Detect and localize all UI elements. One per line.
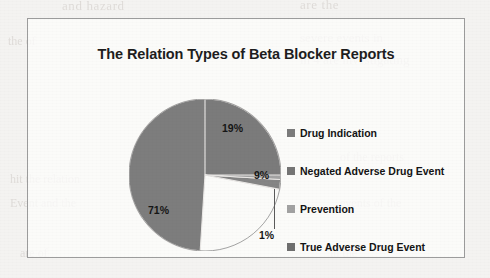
ghost-text-line: are the [300,0,339,13]
chart-frame: The Relation Types of Beta Blocker Repor… [27,18,465,258]
legend-swatch-icon [287,129,295,137]
legend-item-label: Negated Adverse Drug Event [300,165,444,177]
ghost-text-line: and hazard [62,0,125,14]
legend-item-label: Prevention [300,203,354,215]
data-label-prevention: 1% [259,229,274,241]
legend-item-negated-adverse-drug-event[interactable]: Negated Adverse Drug Event [287,152,487,190]
chart-title: The Relation Types of Beta Blocker Repor… [28,46,464,62]
data-label-drug-indication: 19% [222,122,243,134]
legend-item-label: Drug Indication [300,127,377,139]
chart-legend: Drug Indication Negated Adverse Drug Eve… [287,114,487,266]
legend-item-drug-indication[interactable]: Drug Indication [287,114,487,152]
legend-swatch-icon [287,167,295,175]
legend-item-prevention[interactable]: Prevention [287,190,487,228]
data-label-true-adverse-drug-event: 71% [148,204,169,216]
legend-item-label: True Adverse Drug Event [300,241,425,253]
data-label-negated-adverse-drug-event: 9% [254,169,269,181]
legend-item-true-adverse-drug-event[interactable]: True Adverse Drug Event [287,228,487,266]
legend-swatch-icon [287,205,295,213]
prevention-leader-line [274,189,275,229]
legend-swatch-icon [287,243,295,251]
figure-page: and hazard are the the of severe events … [0,0,490,278]
